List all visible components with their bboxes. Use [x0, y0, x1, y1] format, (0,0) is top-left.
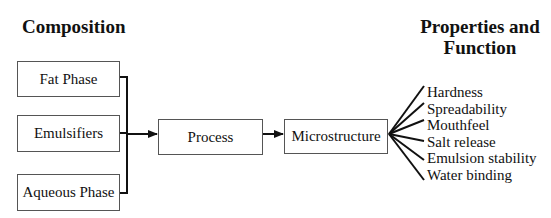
- process-box: Process: [158, 119, 263, 155]
- property-fan-lines: [389, 86, 424, 180]
- property-mouthfeel: Mouthfeel: [427, 117, 537, 134]
- microstructure-box: Microstructure: [284, 119, 388, 154]
- property-salt-release: Salt release: [427, 134, 537, 151]
- microstructure-label: Microstructure: [291, 128, 380, 145]
- property-hardness: Hardness: [427, 84, 537, 101]
- aqueous-phase-box: Aqueous Phase: [17, 174, 120, 211]
- properties-list: Hardness Spreadability Mouthfeel Salt re…: [427, 84, 537, 184]
- property-spreadability: Spreadability: [427, 101, 537, 118]
- property-emulsion-stability: Emulsion stability: [427, 150, 537, 167]
- fat-phase-label: Fat Phase: [40, 71, 98, 88]
- property-water-binding: Water binding: [427, 167, 537, 184]
- input-bracket: [120, 77, 127, 193]
- aqueous-phase-label: Aqueous Phase: [22, 184, 114, 201]
- process-label: Process: [188, 129, 234, 146]
- emulsifiers-box: Emulsifiers: [17, 115, 120, 152]
- fat-phase-box: Fat Phase: [17, 61, 120, 97]
- emulsifiers-label: Emulsifiers: [34, 125, 103, 142]
